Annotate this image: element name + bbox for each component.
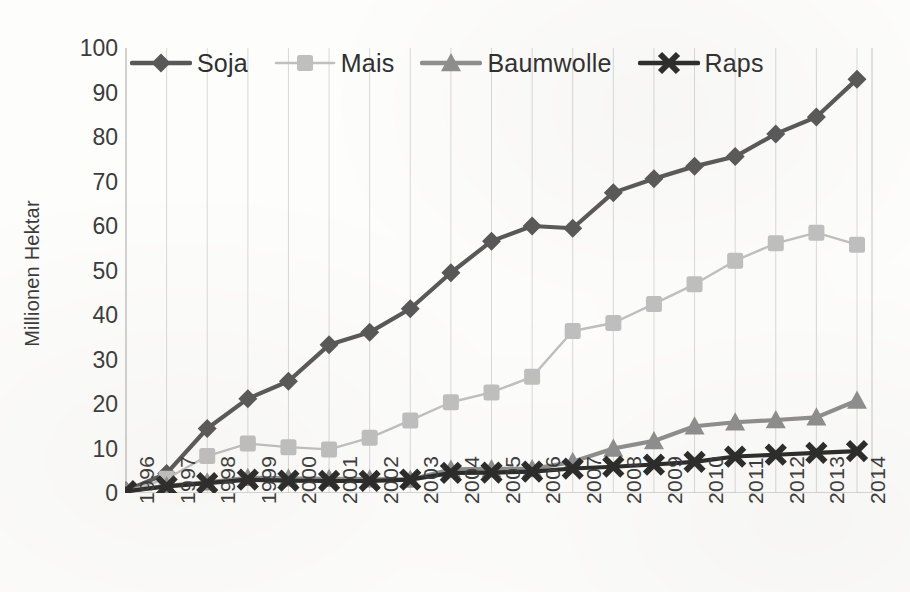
x-tick-label: 2010 [704,456,728,504]
series-mais [125,225,865,493]
x-tick-label: 2006 [541,456,565,504]
y-tick-label: 50 [66,260,118,283]
square-marker-icon [280,439,296,455]
y-tick-label: 70 [66,171,118,194]
y-tick-label: 10 [66,438,118,461]
diamond-marker-icon [766,124,785,143]
y-tick-label: 20 [66,393,118,416]
square-marker-icon [808,225,824,241]
diamond-marker-icon [726,147,745,166]
x-tick-label: 1999 [257,456,281,504]
series-soja [125,70,867,493]
chart-legend: SojaMaisBaumwolleRaps [130,46,764,80]
square-marker-icon [687,276,703,292]
square-marker-icon [274,49,336,77]
y-tick-label: 100 [66,37,118,60]
diamond-marker-icon [644,169,663,188]
legend-item-mais[interactable]: Mais [274,49,395,78]
triangle-marker-icon [847,390,867,408]
x-tick-label: 2000 [297,456,321,504]
square-marker-icon [727,253,743,269]
diamond-marker-icon [152,54,171,73]
x-tick-label: 2008 [622,456,646,504]
y-tick-label: 0 [66,482,118,505]
square-marker-icon [524,369,540,385]
square-marker-icon [484,384,500,400]
y-tick-label: 90 [66,82,118,105]
legend-label: Baumwolle [487,49,611,78]
diamond-marker-icon [685,157,704,176]
square-marker-icon [646,296,662,312]
legend-label: Mais [341,49,395,78]
legend-item-baumwolle[interactable]: Baumwolle [420,49,611,78]
legend-item-soja[interactable]: Soja [130,49,248,78]
square-marker-icon [297,55,313,71]
x-tick-label: 2004 [460,456,484,504]
x-tick-label: 1997 [176,456,200,504]
cross-marker-icon [638,49,700,77]
square-marker-icon [443,394,459,410]
square-marker-icon [240,436,256,452]
legend-item-raps[interactable]: Raps [638,49,764,78]
series-layer [125,48,873,493]
y-tick-label: 40 [66,304,118,327]
x-tick-label: 2003 [419,456,443,504]
x-tick-label: 2002 [379,456,403,504]
square-marker-icon [402,412,418,428]
plot-area [125,48,873,493]
y-tick-label: 80 [66,126,118,149]
y-tick-label: 30 [66,349,118,372]
square-marker-icon [199,448,215,464]
x-tick-label: 2007 [582,456,606,504]
line-chart: 1009080706050403020100 Millionen Hektar … [0,0,910,592]
diamond-marker-icon [130,49,192,77]
x-tick-label: 2009 [663,456,687,504]
square-marker-icon [321,441,337,457]
x-tick-label: 2014 [866,456,890,504]
square-marker-icon [849,237,865,253]
x-tick-label: 2012 [785,456,809,504]
diamond-marker-icon [360,323,379,342]
x-tick-label: 2001 [338,456,362,504]
square-marker-icon [768,235,784,251]
square-marker-icon [565,323,581,339]
x-tick-label: 1998 [216,456,240,504]
x-tick-label: 2013 [825,456,849,504]
x-tick-label: 1996 [135,456,159,504]
y-axis-title: Millionen Hektar [21,124,44,424]
legend-label: Raps [705,49,764,78]
legend-label: Soja [197,49,248,78]
square-marker-icon [605,315,621,331]
x-tick-label: 2005 [501,456,525,504]
diamond-marker-icon [523,217,542,236]
triangle-marker-icon [420,49,482,77]
x-tick-label: 2011 [744,457,768,504]
square-marker-icon [362,430,378,446]
y-tick-label: 60 [66,215,118,238]
